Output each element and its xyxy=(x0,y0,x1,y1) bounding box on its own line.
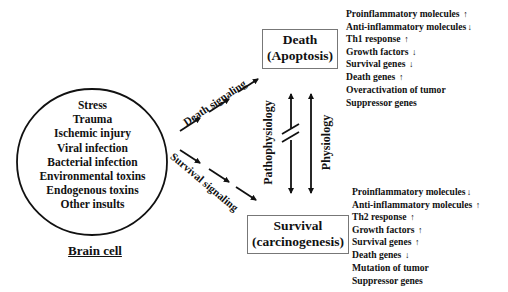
insult-item: Ischemic injury xyxy=(17,126,168,140)
arrow-up-icon: ↑ xyxy=(403,34,410,46)
effect-item: Growth factors ↑ xyxy=(352,224,482,237)
insult-item: Stress xyxy=(17,98,168,112)
effect-item: Overactivation of tumor xyxy=(346,84,473,96)
effect-item: Suppressor genes xyxy=(346,97,473,109)
brain-cell-label: Brain cell xyxy=(55,243,135,259)
arrow-up-icon: ↑ xyxy=(398,72,405,84)
effect-item: Growth factors ↓ xyxy=(346,46,473,59)
death-effects-list: Proinflammatory molecules ↑ Anti-inflamm… xyxy=(346,8,473,108)
effect-item: Death genes ↓ xyxy=(352,249,482,262)
arrow-down-icon: ↓ xyxy=(404,250,411,262)
pathophysiology-arrow xyxy=(282,94,299,193)
arrow-down-icon: ↓ xyxy=(411,47,418,59)
arrow-up-icon: ↑ xyxy=(417,225,424,237)
insult-item: Other insults xyxy=(17,197,168,211)
arrow-up-icon: ↑ xyxy=(475,200,482,212)
pathophysiology-label: Pathophysiology xyxy=(261,97,276,189)
insult-item: Endogenous toxins xyxy=(17,183,168,197)
death-outcome-box: Death (Apoptosis) xyxy=(262,29,338,69)
survival-outcome-box: Survival (carcinogenesis) xyxy=(247,215,349,254)
effect-item: Death genes ↑ xyxy=(346,71,473,84)
effect-item: Mutation of tumor xyxy=(352,262,482,274)
insult-item: Trauma xyxy=(17,112,168,126)
arrow-down-icon: ↓ xyxy=(466,22,473,34)
effect-item: Proinflammatory molecules↓ xyxy=(352,186,482,199)
arrow-down-icon: ↓ xyxy=(408,59,415,71)
survival-subtitle: (carcinogenesis) xyxy=(248,234,348,250)
effect-item: Th2 response ↑ xyxy=(352,211,482,224)
physiology-label: Physiology xyxy=(319,112,334,174)
arrow-up-icon: ↑ xyxy=(462,9,469,21)
arrow-down-icon: ↓ xyxy=(466,187,473,199)
effect-item: Suppressor genes xyxy=(352,275,482,287)
arrow-up-icon: ↑ xyxy=(414,237,421,249)
death-subtitle: (Apoptosis) xyxy=(263,48,337,64)
effect-item: Anti-inflammatory molecules ↑ xyxy=(352,199,482,212)
insult-item: Viral infection xyxy=(17,141,168,155)
survival-effects-list: Proinflammatory molecules↓ Anti-inflamma… xyxy=(352,186,482,286)
brain-cell-insults-list: Stress Trauma Ischemic injury Viral infe… xyxy=(17,98,168,212)
arrow-up-icon: ↑ xyxy=(409,212,416,224)
effect-item: Th1 response ↑ xyxy=(346,33,473,46)
death-title: Death xyxy=(263,32,337,48)
insult-item: Environmental toxins xyxy=(17,169,168,183)
effect-item: Proinflammatory molecules ↑ xyxy=(346,8,473,21)
effect-item: Survival genes ↑ xyxy=(352,236,482,249)
survival-title: Survival xyxy=(248,218,348,234)
effect-item: Survival genes ↓ xyxy=(346,58,473,71)
insult-item: Bacterial infection xyxy=(17,155,168,169)
effect-item: Anti-inflammatory molecules↓ xyxy=(346,21,473,34)
